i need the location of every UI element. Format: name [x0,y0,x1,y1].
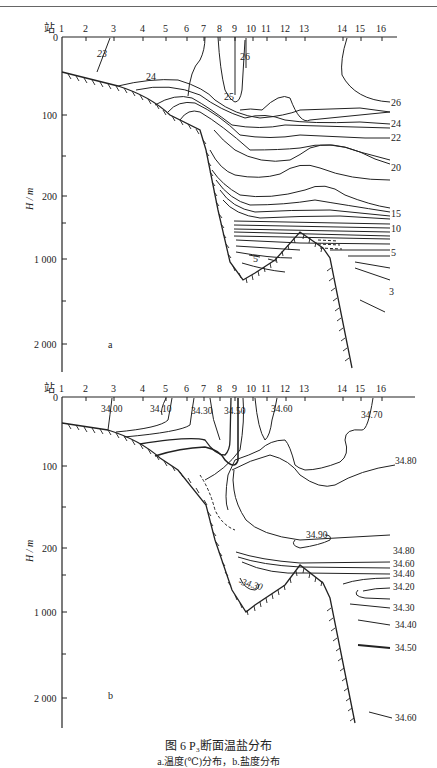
station-label: 7 [201,383,206,394]
station-label: 5 [163,383,168,394]
isotherm-label: 10 [391,223,401,234]
isohaline-label: 34.80 [393,546,415,556]
station-label: 6 [184,23,189,34]
isotherm-label: 5 [391,247,396,258]
station-label: 15 [355,23,365,34]
depth-tick-label: 2 000 [34,339,57,350]
temperature-isotherms [97,37,390,312]
depth-tick-label: 200 [42,543,57,554]
isohaline-label: 34.60 [395,713,417,723]
seafloor-hatching [68,424,354,721]
isotherm-label: 24 [391,118,401,129]
station-label: 1 [59,383,64,394]
depth-tick-label: 1 000 [34,254,57,265]
isohaline-label: 34.20 [393,582,415,592]
isotherm-label: 23 [97,48,107,59]
isotherm-label: 3 [389,286,394,297]
isohaline-label: 34.80 [395,456,417,466]
isotherm-label: 5 [253,253,258,264]
isohaline-label: 34.00 [101,404,123,414]
salinity-section-panel: 站 1 2 3 4 5 6 7 8 9 10 11 12 13 14 15 16… [0,380,437,730]
station-label: 9 [232,383,237,394]
station-label: 16 [376,23,386,34]
isotherm-label: 20 [391,162,401,173]
isotherm-label: 26 [391,97,401,108]
isohaline-label: 34.40 [393,569,415,579]
isohaline-label: 34.60 [393,559,415,569]
station-label: 7 [201,23,206,34]
isohaline-label: 34.50 [395,643,417,653]
isotherm-label: 22 [391,132,401,143]
station-label: 10 [246,383,256,394]
figure-subcaption: a.温度(℃)分布，b.盐度分布 [0,753,437,768]
isohaline-label: 34.50 [224,406,246,416]
isotherm-label: 25 [224,91,234,102]
station-label: 11 [261,23,271,34]
station-label: 2 [83,383,88,394]
depth-tick-label: 1 000 [34,607,57,618]
isotherm-label: 24 [146,71,156,82]
isohaline-label: 34.30 [191,406,213,416]
panel-letter: a [108,339,113,350]
station-label: 16 [376,383,386,394]
depth-tick-label: 0 [53,392,58,403]
depth-axis-label: H / m [24,188,35,211]
station-label: 13 [299,383,309,394]
station-label: 15 [355,383,365,394]
station-label: 14 [337,23,347,34]
isohaline-label: 34.60 [271,404,293,414]
salinity-isohalines [108,398,395,718]
station-label: 14 [337,383,347,394]
isohaline-label: -34.30 [237,576,264,592]
isohaline-label: 34.40 [395,620,417,630]
station-label: 4 [140,383,145,394]
depth-axis-label: H / m [24,540,35,563]
station-axis [62,37,397,372]
panel-letter: b [108,690,113,701]
station-label: 8 [217,23,222,34]
station-label: 13 [299,23,309,34]
isohaline-label: 34.30 [393,603,415,613]
figure-caption: 图 6 P₃断面温盐分布 [0,736,437,754]
station-label: 3 [111,383,116,394]
station-label: 6 [184,383,189,394]
station-label: 1 [59,23,64,34]
station-label: 2 [83,23,88,34]
isohaline-label: 34.90 [306,530,328,540]
depth-tick-label: 100 [42,110,57,121]
isohaline-label: 34.10 [150,404,172,414]
station-label: 5 [163,23,168,34]
depth-tick-label: 100 [42,461,57,472]
station-label: 8 [217,383,222,394]
temperature-section-panel: 站 1 2 3 4 5 6 7 8 9 10 11 12 13 14 15 16… [0,0,437,380]
station-label: 12 [280,23,290,34]
isotherm-label: 26 [240,51,250,62]
station-label: 9 [232,23,237,34]
depth-tick-label: 0 [53,32,58,43]
station-label: 10 [246,23,256,34]
station-label: 4 [140,23,145,34]
station-label: 3 [111,23,116,34]
dashed-isotherms [318,240,342,249]
depth-tick-label: 2 000 [34,693,57,704]
isohaline-label: 34.70 [361,410,383,420]
isotherm-label: 15 [391,208,401,219]
station-label: 11 [261,383,271,394]
station-label: 12 [280,383,290,394]
depth-tick-label: 200 [42,191,57,202]
